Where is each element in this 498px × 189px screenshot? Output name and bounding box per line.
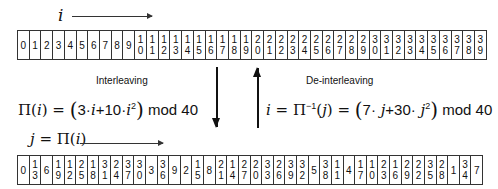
cell-tens-digit: 3: [384, 34, 390, 45]
deinterleaving-label: De-interleaving: [306, 75, 373, 86]
sequence-cell: 4: [344, 156, 356, 184]
cell-ones-digit: 9: [404, 170, 410, 181]
cell-ones-digit: 2: [278, 45, 284, 56]
cell-tens-digit: 1: [232, 34, 238, 45]
top-index-label: i: [58, 5, 63, 25]
cell-ones-digit: 0: [372, 45, 378, 56]
cell-ones-digit: 4: [419, 45, 425, 56]
sequence-cell: 25: [311, 31, 323, 59]
cell-tens-digit: 2: [439, 159, 445, 170]
sequence-cell: 36: [440, 31, 452, 59]
cell-tens-digit: 2: [314, 34, 320, 45]
cell-tens-digit: 1: [55, 159, 61, 170]
cell-value: 7: [103, 40, 109, 51]
cell-ones-digit: 5: [196, 45, 202, 56]
cell-value: 5: [79, 40, 85, 51]
cell-tens-digit: 1: [208, 34, 214, 45]
sequence-cell: 5: [77, 31, 89, 59]
cell-tens-digit: 3: [372, 34, 378, 45]
cell-value: 8: [207, 165, 213, 176]
cell-tens-digit: 1: [32, 159, 38, 170]
cell-tens-digit: 2: [290, 34, 296, 45]
cell-tens-digit: 2: [114, 159, 120, 170]
cell-ones-digit: 0: [255, 45, 261, 56]
cell-ones-digit: 6: [208, 45, 214, 56]
sequence-cell: 32: [297, 156, 309, 184]
sequence-cell: 20: [251, 156, 263, 184]
cell-value: 3: [148, 165, 154, 176]
cell-tens-digit: 1: [173, 34, 179, 45]
cell-tens-digit: 3: [265, 159, 271, 170]
cell-ones-digit: 9: [478, 45, 484, 56]
cell-tens-digit: 3: [300, 159, 306, 170]
cell-tens-digit: 1: [185, 34, 191, 45]
sequence-cell: 36: [158, 156, 170, 184]
cell-ones-digit: 8: [90, 170, 96, 181]
cell-ones-digit: 0: [138, 45, 144, 56]
sequence-cell: 8: [204, 156, 216, 184]
sequence-cell: 30: [134, 156, 146, 184]
cell-ones-digit: 6: [160, 170, 166, 181]
sequence-cell: 1: [30, 31, 42, 59]
sequence-cell: 27: [334, 31, 346, 59]
sequence-cell: 16: [206, 31, 218, 59]
cell-tens-digit: 3: [478, 34, 484, 45]
sequence-cell: 37: [123, 156, 135, 184]
bottom-index-label: j = Π(i): [30, 130, 86, 148]
sequence-cell: 12: [159, 31, 171, 59]
cell-tens-digit: 3: [419, 34, 425, 45]
sequence-cell: 38: [320, 156, 332, 184]
sequence-cell: 32: [393, 31, 405, 59]
sequence-cell: 29: [358, 31, 370, 59]
cell-tens-digit: 2: [360, 34, 366, 45]
cell-tens-digit: 3: [407, 34, 413, 45]
cell-tens-digit: 1: [230, 159, 236, 170]
cell-ones-digit: 1: [149, 45, 155, 56]
top-index-arrow-icon: [72, 16, 152, 17]
sequence-cell: 21: [216, 156, 228, 184]
sequence-cell: 2: [41, 31, 53, 59]
sequence-cell: 15: [192, 156, 204, 184]
cell-value: 0: [21, 165, 27, 176]
cell-tens-digit: 1: [358, 159, 364, 170]
cell-tens-digit: 3: [431, 34, 437, 45]
cell-tens-digit: 2: [302, 34, 308, 45]
cell-ones-digit: 5: [195, 170, 201, 181]
cell-tens-digit: 2: [404, 159, 410, 170]
sequence-cell: 22: [413, 156, 425, 184]
cell-ones-digit: 9: [55, 170, 61, 181]
cell-ones-digit: 9: [288, 170, 294, 181]
cell-ones-digit: 5: [427, 170, 433, 181]
sequence-cell: 24: [111, 156, 123, 184]
sequence-cell: 0: [18, 156, 30, 184]
sequence-cell: 8: [112, 31, 124, 59]
sequence-cell: 34: [460, 156, 472, 184]
cell-ones-digit: 1: [102, 170, 108, 181]
cell-ones-digit: 6: [325, 45, 331, 56]
cell-ones-digit: 1: [218, 170, 224, 181]
sequence-cell: 31: [99, 156, 111, 184]
sequence-cell: 4: [65, 31, 77, 59]
sequence-cell: 23: [378, 156, 390, 184]
cell-ones-digit: 6: [442, 45, 448, 56]
cell-ones-digit: 8: [232, 45, 238, 56]
cell-ones-digit: 0: [369, 170, 375, 181]
cell-value: 5: [311, 165, 317, 176]
cell-tens-digit: 1: [393, 159, 399, 170]
sequence-cell: 1: [448, 156, 460, 184]
sequence-cell: 21: [264, 31, 276, 59]
cell-tens-digit: 1: [138, 34, 144, 45]
sequence-cell: 18: [229, 31, 241, 59]
sequence-cell: 11: [332, 156, 344, 184]
cell-value: 4: [67, 40, 73, 51]
cell-tens-digit: 3: [137, 159, 143, 170]
cell-ones-digit: 5: [314, 45, 320, 56]
cell-ones-digit: 6: [276, 170, 282, 181]
cell-ones-digit: 3: [265, 170, 271, 181]
cell-ones-digit: 2: [161, 45, 167, 56]
sequence-cell: 12: [65, 156, 77, 184]
cell-tens-digit: 2: [325, 34, 331, 45]
deinterleaving-formula: i = Π−1(j) = (7· j+30· j2) mod 40: [266, 98, 492, 122]
cell-ones-digit: 4: [185, 45, 191, 56]
cell-ones-digit: 4: [230, 170, 236, 181]
